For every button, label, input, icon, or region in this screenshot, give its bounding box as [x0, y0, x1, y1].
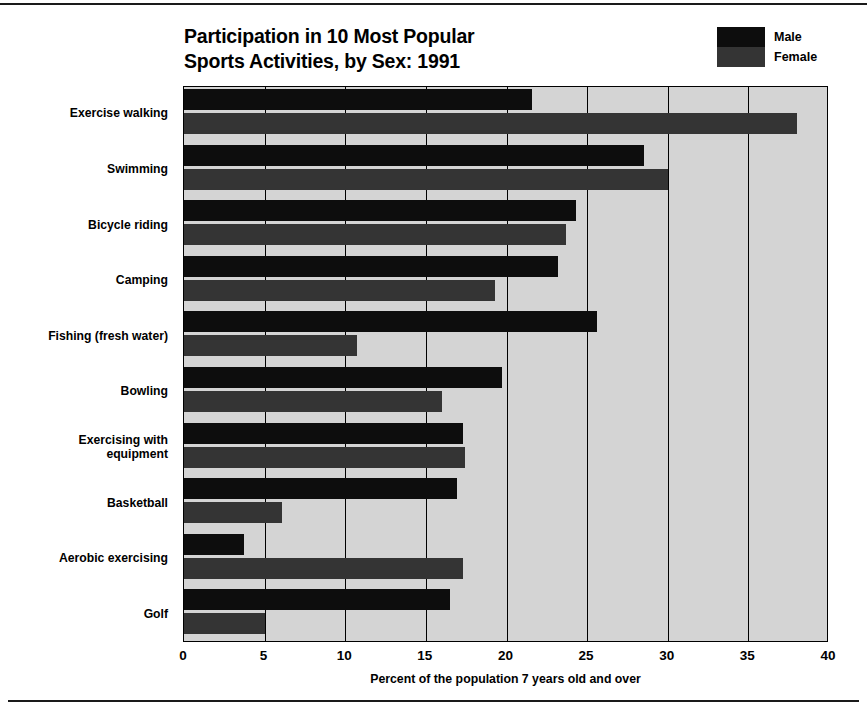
category-label-line: Bicycle riding	[88, 218, 168, 232]
chart-title: Participation in 10 Most Popular Sports …	[184, 24, 614, 74]
category-label: Bicycle riding	[0, 218, 176, 233]
category-label-line: Exercising with	[79, 433, 168, 447]
bar-female	[184, 391, 442, 412]
x-tick-label-25: 25	[579, 648, 594, 663]
x-tick-label-35: 35	[740, 648, 755, 663]
x-tick-label-20: 20	[498, 648, 513, 663]
bar-female	[184, 447, 465, 468]
bar-male	[184, 589, 450, 610]
bar-female	[184, 224, 566, 245]
legend-item-male: Male	[717, 27, 817, 47]
chart-title-line-1: Participation in 10 Most Popular	[184, 24, 614, 49]
bar-row	[184, 365, 827, 421]
bar-row	[184, 532, 827, 588]
chart-legend: Male Female	[717, 27, 817, 67]
bar-rows	[184, 87, 827, 641]
bar-male	[184, 200, 576, 221]
bar-male	[184, 311, 597, 332]
x-axis-title: Percent of the population 7 years old an…	[183, 672, 828, 686]
category-label: Aerobic exercising	[0, 551, 176, 566]
bar-female	[184, 113, 797, 134]
bar-row	[184, 587, 827, 643]
bar-row	[184, 476, 827, 532]
category-axis-labels: Exercise walkingSwimmingBicycle ridingCa…	[0, 86, 176, 642]
category-label: Exercising withequipment	[0, 433, 176, 463]
bar-row	[184, 87, 827, 143]
x-tick-label-40: 40	[820, 648, 835, 663]
top-divider	[0, 3, 867, 5]
category-label-line: equipment	[106, 447, 168, 461]
bar-male	[184, 367, 502, 388]
category-label-line: Aerobic exercising	[59, 551, 168, 565]
category-label-line: Fishing (fresh water)	[48, 329, 168, 343]
legend-label-female: Female	[774, 50, 817, 64]
x-tick-label-30: 30	[659, 648, 674, 663]
x-axis-ticks: 0510152025303540	[183, 648, 828, 668]
bar-row	[184, 421, 827, 477]
bar-row	[184, 143, 827, 199]
category-label: Golf	[0, 607, 176, 622]
bar-male	[184, 256, 558, 277]
category-label: Basketball	[0, 496, 176, 511]
category-label-line: Basketball	[107, 496, 168, 510]
legend-swatch-female	[717, 47, 765, 67]
bar-row	[184, 254, 827, 310]
category-label: Camping	[0, 273, 176, 288]
legend-label-male: Male	[774, 30, 802, 44]
bar-female	[184, 613, 265, 634]
x-tick-label-5: 5	[260, 648, 268, 663]
bar-female	[184, 280, 495, 301]
bar-female	[184, 558, 463, 579]
bar-female	[184, 169, 668, 190]
category-label-line: Golf	[144, 607, 168, 621]
bar-row	[184, 309, 827, 365]
bar-female	[184, 502, 282, 523]
legend-item-female: Female	[717, 47, 817, 67]
category-label-line: Swimming	[107, 162, 168, 176]
bar-row	[184, 198, 827, 254]
x-tick-label-10: 10	[337, 648, 352, 663]
category-label-line: Exercise walking	[70, 106, 168, 120]
x-tick-label-15: 15	[417, 648, 432, 663]
category-label: Exercise walking	[0, 106, 176, 121]
plot-area	[183, 86, 828, 642]
bar-male	[184, 145, 644, 166]
bottom-divider	[8, 700, 859, 702]
bar-male	[184, 478, 457, 499]
category-label-line: Bowling	[121, 384, 168, 398]
category-label: Bowling	[0, 384, 176, 399]
bar-male	[184, 534, 244, 555]
x-tick-label-0: 0	[179, 648, 187, 663]
legend-swatch-male	[717, 27, 765, 47]
bar-female	[184, 335, 357, 356]
category-label-line: Camping	[116, 273, 168, 287]
bar-male	[184, 89, 532, 110]
bar-male	[184, 423, 463, 444]
chart-title-line-2: Sports Activities, by Sex: 1991	[184, 49, 614, 74]
category-label: Fishing (fresh water)	[0, 329, 176, 344]
category-label: Swimming	[0, 162, 176, 177]
